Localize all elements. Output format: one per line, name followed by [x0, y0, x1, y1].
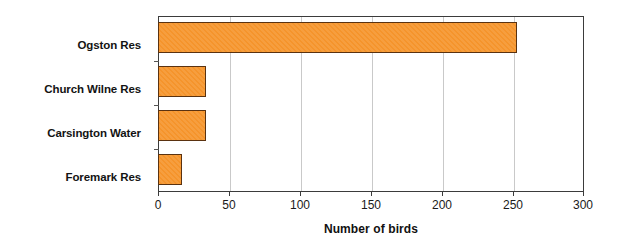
bar-foremark-res: [158, 154, 182, 185]
x-axis-label-100: 100: [290, 198, 310, 212]
bar-chart: Ogston Res Church Wilne Res Carsington W…: [0, 0, 617, 247]
x-axis-tick-250: [513, 192, 514, 196]
x-axis-tick-150: [371, 192, 372, 196]
x-axis-tick-0: [158, 192, 159, 196]
y-axis-tick-0: [154, 61, 159, 62]
y-axis-tick-1: [154, 105, 159, 106]
y-axis-label-1: Church Wilne Res: [0, 83, 141, 95]
x-axis-label-250: 250: [503, 198, 523, 212]
x-axis-title: Number of birds: [158, 222, 584, 236]
x-axis-label-150: 150: [361, 198, 381, 212]
y-axis-labels: Ogston Res Church Wilne Res Carsington W…: [0, 16, 150, 192]
x-axis-label-300: 300: [573, 198, 593, 212]
x-axis-tick-200: [442, 192, 443, 196]
y-axis-label-2: Carsington Water: [0, 127, 141, 139]
bar-church-wilne-res: [158, 66, 206, 97]
x-axis-tick-50: [229, 192, 230, 196]
x-axis-label-0: 0: [155, 198, 162, 212]
bar-carsington-water: [158, 110, 206, 141]
x-axis-label-200: 200: [432, 198, 452, 212]
y-axis-label-3: Foremark Res: [0, 171, 141, 183]
x-axis-tick-300: [583, 192, 584, 196]
x-axis-label-50: 50: [222, 198, 235, 212]
y-axis-tick-2: [154, 149, 159, 150]
x-axis-tick-100: [300, 192, 301, 196]
bar-ogston-res: [158, 22, 517, 53]
plot-area: [158, 16, 584, 192]
y-axis-label-0: Ogston Res: [0, 39, 141, 51]
